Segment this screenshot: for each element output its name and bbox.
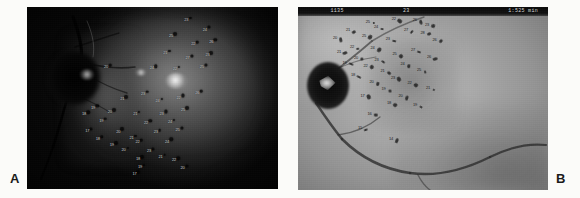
grid-marker: 23 <box>141 92 145 96</box>
grid-marker: 25 <box>169 34 173 38</box>
grid-marker: 23 <box>160 112 164 116</box>
grid-marker: 19 <box>342 61 346 65</box>
grid-marker: 20 <box>333 36 337 40</box>
grid-marker: 25 <box>417 68 421 72</box>
retinal-hemorrhage-blot <box>419 19 423 24</box>
grid-marker: 20 <box>108 110 112 114</box>
grid-marker: 25 <box>181 108 185 112</box>
grid-marker: 15 <box>358 126 362 130</box>
retinal-hemorrhage-blot <box>392 39 396 42</box>
grid-marker: 18 <box>351 73 355 77</box>
grid-marker: 21 <box>133 112 137 116</box>
laser-burn-spot <box>185 106 189 110</box>
grid-marker: 16 <box>367 112 371 116</box>
panel-label-a: A <box>10 172 20 185</box>
panel-b-header-center-text: 23 <box>403 7 410 16</box>
grid-marker: 27 <box>186 56 190 60</box>
grid-marker: 23 <box>374 58 378 62</box>
laser-burn-spot <box>148 119 152 123</box>
grid-marker: 20 <box>369 80 373 84</box>
grid-marker: 24 <box>165 140 169 144</box>
laser-burn-spot <box>146 90 149 93</box>
grid-marker: 17 <box>360 94 364 98</box>
grid-marker: 20 <box>398 94 402 98</box>
laser-burn-spot <box>100 135 104 139</box>
grid-marker: 27 <box>411 48 415 52</box>
laser-burn-spot <box>95 104 99 108</box>
retinal-hemorrhage-blot <box>374 114 378 117</box>
grid-marker: 26 <box>195 91 199 95</box>
grid-marker: 23 <box>154 130 158 134</box>
grid-marker: 25 <box>362 34 366 38</box>
grid-marker: 26 <box>427 55 431 59</box>
grid-marker: 19 <box>138 165 142 169</box>
grid-marker: 22 <box>173 67 177 71</box>
laser-burn-spot <box>200 90 203 93</box>
grid-marker: 24 <box>203 28 207 32</box>
panel-a-exudate-lesion <box>165 73 188 89</box>
grid-marker: 20 <box>104 65 108 69</box>
grid-marker: 22 <box>144 121 148 125</box>
grid-marker: 21 <box>163 51 167 55</box>
grid-marker: 27 <box>404 28 408 32</box>
grid-marker: 21 <box>120 97 124 101</box>
grid-marker: 21 <box>159 155 163 159</box>
grid-marker: 18 <box>136 157 140 161</box>
grid-marker: 24 <box>400 62 404 66</box>
grid-marker: 26 <box>432 38 436 42</box>
grid-marker: 20 <box>122 148 126 152</box>
grid-marker: 22 <box>407 81 411 85</box>
grid-marker: 25 <box>366 20 370 24</box>
laser-burn-spot <box>158 129 161 132</box>
grid-marker: 18 <box>82 112 86 116</box>
grid-marker: 22 <box>363 64 367 68</box>
grid-marker: 20 <box>181 166 185 170</box>
panel-a-disc-highlight <box>80 69 94 80</box>
grid-marker: 21 <box>346 28 350 32</box>
laser-burn-spot <box>196 41 199 44</box>
grid-marker: 19 <box>91 106 95 110</box>
laser-burn-spot <box>136 170 140 174</box>
grid-marker: 21 <box>129 136 133 140</box>
retinal-hemorrhage-blot <box>407 64 410 68</box>
grid-marker: 22 <box>172 158 176 162</box>
laser-burn-spot <box>124 95 128 99</box>
grid-marker: 21 <box>337 50 341 54</box>
figure-root: 2324252226212723202422252123192422202618… <box>0 0 580 198</box>
grid-marker: 21 <box>380 69 384 73</box>
grid-marker: 22 <box>191 42 195 46</box>
laser-burn-spot <box>109 64 112 67</box>
grid-marker: 22 <box>135 140 139 144</box>
grid-marker: 17 <box>85 129 89 133</box>
grid-marker: 24 <box>155 99 159 103</box>
grid-marker: 24 <box>168 120 172 124</box>
grid-marker: 18 <box>96 137 100 141</box>
laser-burn-spot <box>176 156 180 160</box>
grid-marker: 23 <box>391 76 395 80</box>
grid-marker: 21 <box>426 86 430 90</box>
panel-b-header-left-text: 1135 <box>331 7 344 16</box>
grid-marker: 17 <box>132 172 136 176</box>
grid-marker: 25 <box>176 128 180 132</box>
grid-marker: 23 <box>184 18 188 22</box>
grid-marker: 14 <box>389 137 393 141</box>
laser-burn-spot <box>163 153 166 156</box>
grid-marker: 25 <box>200 65 204 69</box>
panel-b-fundus-image: 2522262321242720252823262224212725202326… <box>298 7 548 190</box>
grid-marker: 19 <box>413 103 417 107</box>
grid-marker: 20 <box>354 56 358 60</box>
grid-marker: 19 <box>99 119 103 123</box>
laser-burn-spot <box>114 141 118 145</box>
laser-burn-spot <box>112 108 116 112</box>
laser-burn-spot <box>154 64 158 68</box>
grid-marker: 23 <box>386 37 390 41</box>
laser-burn-spot <box>120 127 124 131</box>
retinal-hemorrhage-blot <box>388 89 391 92</box>
grid-marker: 18 <box>387 101 391 105</box>
grid-marker: 24 <box>150 66 154 70</box>
laser-burn-spot <box>209 51 213 55</box>
grid-marker: 22 <box>350 45 354 49</box>
laser-burn-spot <box>140 139 143 142</box>
grid-marker: 26 <box>413 18 417 22</box>
grid-marker: 22 <box>177 96 181 100</box>
